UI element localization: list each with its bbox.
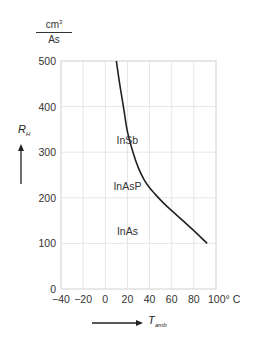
x-tick-label: 40 — [144, 293, 156, 305]
y-tick-label: 400 — [38, 101, 56, 113]
x-arrow-head-icon — [136, 320, 143, 326]
x-tick-label: −20 — [74, 293, 92, 305]
x-axis-subscript: amb — [155, 322, 167, 328]
x-tick-label: 0 — [102, 293, 108, 305]
plot-frame — [61, 61, 216, 289]
y-tick-label: 300 — [38, 146, 56, 158]
y-tick-label: 100 — [38, 237, 56, 249]
x-tick-label: 20 — [122, 293, 134, 305]
annotation-label: InAs — [117, 225, 138, 237]
y-tick-label: 500 — [38, 55, 56, 67]
y-axis-subscript: H — [26, 131, 31, 137]
y-arrow-head-icon — [18, 144, 24, 151]
x-tick-label: 80 — [188, 293, 200, 305]
y-tick-label: 200 — [38, 192, 56, 204]
x-tick-label: −40 — [52, 293, 70, 305]
annotation-label: InSb — [117, 134, 139, 146]
annotation-label: InAsP — [113, 180, 141, 192]
x-tick-label: 60 — [166, 293, 178, 305]
x-tick-label: 100° C — [208, 293, 241, 305]
y-axis-title: R — [18, 123, 26, 135]
hall-coefficient-chart: 0100200300400500−40−20020406080100° CInS… — [0, 0, 257, 341]
